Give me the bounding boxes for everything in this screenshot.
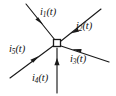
branch-label-i5: i5(t) (9, 44, 25, 56)
branch-label-i4: i4(t) (32, 73, 48, 85)
circuit-node-figure: i1(t) i2(t) i3(t) i4(t) i5(t) (0, 0, 116, 96)
branch-label-i5-arg: (t) (15, 43, 25, 54)
branch-label-i3-arg: (t) (76, 53, 86, 64)
branch-label-i4-arg: (t) (38, 72, 48, 83)
branch-label-i2-arg: (t) (82, 20, 92, 31)
branch-label-i3: i3(t) (70, 54, 86, 66)
branch-label-i1: i1(t) (40, 7, 56, 19)
branch-label-i2: i2(t) (76, 21, 92, 33)
branch-label-i1-arg: (t) (46, 6, 56, 17)
junction-node (54, 40, 61, 47)
branch-i4 (54, 48, 59, 93)
branch-i4-arrowhead (54, 58, 59, 65)
